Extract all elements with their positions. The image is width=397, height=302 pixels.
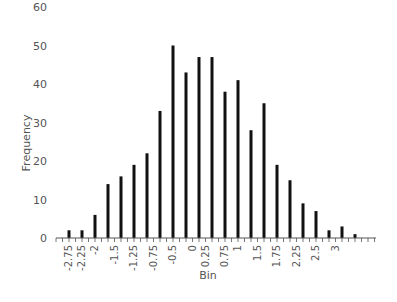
y-tick-label: 50 [33, 40, 47, 53]
y-tick-label: 40 [33, 78, 47, 91]
y-axis-title: Frequency [20, 114, 33, 171]
x-axis-title: Bin [199, 269, 217, 282]
histogram-bar [185, 72, 188, 238]
histogram-chart: 0102030405060 Frequency -2.75-2.25-2-1.5… [0, 0, 397, 302]
x-tick-label: 0.75 [219, 245, 230, 267]
histogram-bar [133, 165, 136, 238]
y-tick-label: 20 [33, 155, 47, 168]
histogram-bar [263, 103, 266, 238]
histogram-bar [211, 57, 214, 238]
bars [68, 46, 357, 239]
histogram-bar [107, 184, 110, 238]
x-tick-label: 2.5 [310, 245, 321, 261]
histogram-bar [159, 111, 162, 238]
histogram-bar [354, 234, 357, 238]
x-tick-label: 3 [330, 245, 341, 251]
x-tick-label: -1.5 [109, 245, 120, 265]
histogram-bar [315, 211, 318, 238]
x-tick-label: 1.5 [252, 245, 263, 261]
histogram-bar [237, 80, 240, 238]
histogram-bar [68, 230, 71, 238]
histogram-bar [224, 92, 227, 238]
histogram-bar [172, 46, 175, 239]
histogram-bar [289, 180, 292, 238]
x-tick-label: -0.5 [167, 245, 178, 265]
x-axis-ticks [56, 238, 375, 242]
x-tick-label: 1 [232, 245, 243, 251]
x-tick-label: -1.25 [128, 245, 139, 271]
x-tick-label: -2 [89, 245, 100, 255]
histogram-bar [341, 226, 344, 238]
x-tick-label: -2.75 [63, 245, 74, 271]
histogram-bar [198, 57, 201, 238]
y-tick-label: 60 [33, 1, 47, 14]
x-tick-label: -2.25 [76, 245, 87, 271]
x-tick-label: 1.75 [271, 245, 282, 267]
y-tick-label: 30 [33, 117, 47, 130]
histogram-bar [302, 203, 305, 238]
histogram-bar [146, 153, 149, 238]
histogram-bar [94, 215, 97, 238]
x-axis-tick-labels: -2.75-2.25-2-1.5-1.25-0.75-0.500.250.751… [63, 245, 341, 271]
y-tick-label: 0 [40, 232, 47, 245]
x-tick-label: 0.25 [200, 245, 211, 267]
y-tick-label: 10 [33, 194, 47, 207]
x-tick-label: -0.75 [148, 245, 159, 271]
histogram-bar [328, 230, 331, 238]
y-axis-tick-labels: 0102030405060 [33, 1, 47, 245]
histogram-bar [276, 165, 279, 238]
x-tick-label: 0 [187, 245, 198, 251]
histogram-bar [81, 230, 84, 238]
histogram-bar [250, 130, 253, 238]
histogram-bar [120, 176, 123, 238]
x-tick-label: 2.25 [291, 245, 302, 267]
